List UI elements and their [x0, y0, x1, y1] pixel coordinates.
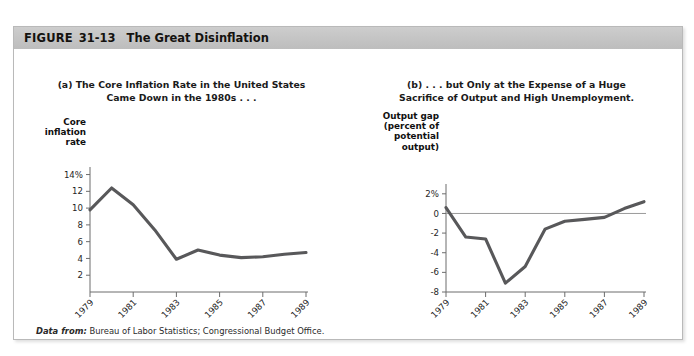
y-tick-label: 8: [78, 220, 83, 230]
x-tick-label: 1987: [587, 297, 610, 319]
y-axis-title-line: output): [402, 142, 439, 152]
x-tick-label: 1985: [202, 297, 225, 319]
panel-b-chart: 2%0-2-4-6-8197919811983198519871989Outpu…: [349, 49, 684, 319]
x-tick-label: 1981: [468, 297, 491, 319]
y-tick-label: 4: [78, 254, 83, 264]
x-axis-title: Year: [625, 318, 650, 319]
x-tick-label: 1989: [627, 297, 650, 319]
y-axis-title-line: potential: [394, 131, 439, 141]
panel-a-chart: 14%12108642197919811983198519871989Corei…: [14, 49, 349, 319]
x-tick-label: 1987: [246, 297, 269, 319]
y-tick-label: -4: [430, 248, 439, 258]
y-tick-label: 14%: [64, 170, 83, 180]
y-tick-label: -6: [430, 267, 439, 277]
x-tick-label: 1983: [159, 297, 182, 319]
figure-header-bar: FIGURE 31-13 The Great Disinflation: [14, 27, 682, 49]
source-note: Data from: Bureau of Labor Statistics; C…: [36, 326, 324, 336]
y-tick-label: -8: [430, 287, 439, 297]
data-series-line: [90, 188, 306, 259]
y-tick-label: 6: [78, 237, 83, 247]
x-tick-label: 1979: [73, 297, 96, 319]
y-axis-title-line: (percent of: [384, 121, 439, 131]
y-tick-label: 0: [434, 209, 439, 219]
y-tick-label: -2: [430, 228, 439, 238]
figure-label: FIGURE: [24, 31, 73, 45]
source-text: Bureau of Labor Statistics; Congressiona…: [89, 326, 324, 336]
x-tick-label: 1989: [289, 297, 312, 319]
y-axis-title-line: inflation: [45, 127, 86, 137]
y-axis-title-line: rate: [66, 137, 86, 147]
chart-panel-b: (b) . . . but Only at the Expense of a H…: [349, 49, 684, 319]
y-axis-title-line: Output gap: [383, 111, 439, 121]
x-tick-label: 1983: [508, 297, 531, 319]
x-tick-label: 1985: [548, 297, 571, 319]
figure-number: 31-13: [79, 31, 116, 45]
source-lead: Data from:: [36, 326, 87, 336]
x-axis-title: Year: [287, 318, 312, 319]
y-tick-label: 2: [78, 270, 83, 280]
figure-title: The Great Disinflation: [127, 31, 269, 45]
y-tick-label: 2%: [425, 189, 439, 199]
y-tick-label: 12: [72, 186, 83, 196]
figure-frame: FIGURE 31-13 The Great Disinflation (a) …: [13, 26, 683, 340]
y-tick-label: 10: [72, 203, 83, 213]
chart-panel-a: (a) The Core Inflation Rate in the Unite…: [14, 49, 349, 319]
x-tick-label: 1979: [429, 297, 452, 319]
y-axis-title-line: Core: [63, 117, 86, 127]
x-tick-label: 1981: [116, 297, 139, 319]
